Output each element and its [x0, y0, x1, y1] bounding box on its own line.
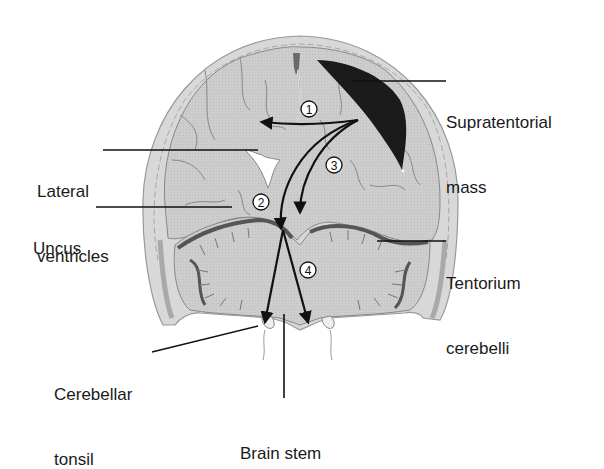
label-line: Tentorium: [446, 273, 521, 294]
label-line: Cerebellar: [54, 384, 132, 405]
marker-3: 3: [326, 157, 342, 173]
label-brain-stem: Brain stem: [240, 401, 321, 469]
label-line: Supratentorial: [446, 112, 552, 133]
marker-2: 2: [253, 194, 269, 210]
label-line: tonsil: [54, 449, 132, 469]
label-tentorium-cerebelli: Tentorium cerebelli: [446, 231, 521, 380]
svg-text:3: 3: [331, 159, 338, 173]
marker-4: 4: [300, 262, 316, 278]
svg-text:4: 4: [305, 264, 312, 278]
leader-cerebellar-tonsil: [152, 326, 258, 352]
label-line: Uncus: [33, 238, 81, 259]
label-supratentorial-mass: Supratentorial mass: [446, 70, 552, 219]
label-line: Brain stem: [240, 443, 321, 464]
label-line: cerebelli: [446, 338, 521, 359]
label-uncus: Uncus: [33, 196, 81, 280]
label-line: mass: [446, 177, 552, 198]
svg-text:1: 1: [306, 103, 313, 117]
marker-1: 1: [301, 101, 317, 117]
label-cerebellar-tonsil: Cerebellar tonsil: [54, 342, 132, 469]
svg-text:2: 2: [258, 196, 265, 210]
